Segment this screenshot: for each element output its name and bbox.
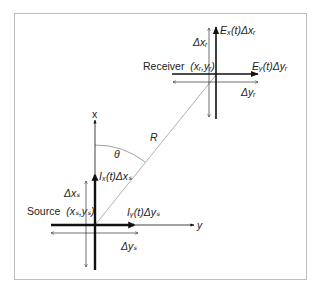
receiver-x-field-label: Eₓ(t)Δxᵣ	[220, 24, 256, 36]
x-axis-label: x	[92, 108, 98, 120]
receiver-delta-x-label: Δxᵣ	[192, 36, 208, 48]
angle-label: θ	[114, 148, 120, 160]
distance-label: R	[150, 131, 158, 143]
source-coords: (xₛ,yₛ)	[66, 205, 94, 217]
receiver-label: Receiver (xᵣ,yᵣ)	[143, 60, 215, 72]
figure-frame	[15, 14, 307, 280]
angle-theta-arc	[95, 145, 145, 162]
receiver-y-field-label: Eᵧ(t)Δyᵣ	[252, 60, 288, 72]
y-axis-label: y	[196, 219, 203, 231]
source-label: Source (xₛ,yₛ)	[27, 205, 95, 217]
source-delta-x-label: Δxₛ	[63, 187, 80, 199]
source-name: Source	[27, 205, 60, 217]
receiver-coords: (xᵣ,yᵣ)	[190, 60, 214, 72]
receiver-name: Receiver	[143, 60, 185, 72]
source-receiver-dipole-diagram: x y R θ Source (xₛ,yₛ) Iₓ(t)Δxₛ Iᵧ(t)Δyₛ…	[0, 0, 318, 292]
source-x-current-label: Iₓ(t)Δxₛ	[99, 170, 132, 182]
source-delta-y-label: Δyₛ	[120, 240, 137, 252]
receiver-delta-y-label: Δyᵣ	[240, 86, 256, 98]
source-y-current-label: Iᵧ(t)Δyₛ	[127, 206, 160, 218]
